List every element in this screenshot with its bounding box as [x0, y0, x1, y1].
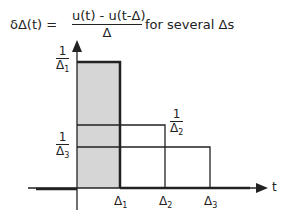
tick-delta1: Δ1	[114, 194, 127, 210]
y-axis-arrow-icon	[72, 40, 82, 52]
x-axis-arrow-icon	[256, 183, 268, 193]
height-label-delta3: 1 Δ3	[56, 131, 69, 162]
height-label-delta2: 1 Δ2	[170, 108, 183, 139]
pulse-plot	[0, 0, 288, 218]
tick-delta2: Δ2	[159, 194, 172, 210]
tick-delta3: Δ3	[204, 194, 217, 210]
x-axis-label: t	[272, 180, 277, 194]
height-label-delta1: 1 Δ1	[56, 45, 69, 76]
